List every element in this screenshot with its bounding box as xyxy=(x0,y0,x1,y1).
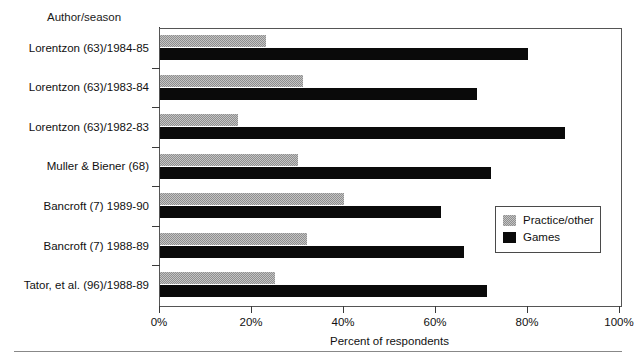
bar-practice-other xyxy=(160,35,266,47)
legend-item: Games xyxy=(503,229,594,246)
category-label-list: Lorentzon (63)/1984-85Lorentzon (63)/198… xyxy=(0,28,155,305)
category-label: Muller & Biener (68) xyxy=(47,147,149,187)
x-axis-tick xyxy=(251,306,252,313)
bar-practice-other xyxy=(160,193,344,205)
category-label: Bancroft (7) 1989-90 xyxy=(44,186,149,226)
bar-group xyxy=(160,28,620,68)
x-axis-tick xyxy=(619,306,620,313)
y-axis-tick xyxy=(152,265,160,266)
y-axis-tick xyxy=(152,147,160,148)
x-axis-title: Percent of respondents xyxy=(159,334,620,348)
bar-group xyxy=(160,68,620,108)
x-axis-tick-label: 20% xyxy=(239,315,262,329)
category-label: Lorentzon (63)/1983-84 xyxy=(29,68,149,108)
bar-games xyxy=(160,206,441,218)
x-axis-tick xyxy=(159,306,160,313)
y-axis-tick xyxy=(152,107,160,108)
bar-group xyxy=(160,147,620,187)
bar-games xyxy=(160,88,477,100)
bar-practice-other xyxy=(160,75,303,87)
bar-practice-other xyxy=(160,233,307,245)
footer-divider xyxy=(14,351,622,352)
bar-games xyxy=(160,48,528,60)
x-axis-tick xyxy=(527,306,528,313)
legend-item: Practice/other xyxy=(503,212,594,229)
x-axis-tick-label: 80% xyxy=(515,315,538,329)
x-axis-tick-label: 100% xyxy=(604,315,633,329)
category-label: Bancroft (7) 1988-89 xyxy=(44,226,149,266)
x-axis-tick-label: 60% xyxy=(423,315,446,329)
bar-games xyxy=(160,246,464,258)
bar-practice-other xyxy=(160,114,238,126)
bar-practice-other xyxy=(160,154,298,166)
bars-layer xyxy=(160,28,620,305)
y-axis-tick xyxy=(152,186,160,187)
bar-games xyxy=(160,167,491,179)
chart-legend: Practice/otherGames xyxy=(495,206,601,253)
bar-group xyxy=(160,265,620,305)
x-axis-tick-label: 0% xyxy=(151,315,168,329)
legend-item-label: Practice/other xyxy=(523,214,594,227)
hatched-gray-swatch xyxy=(503,215,516,226)
y-axis-tick xyxy=(152,226,160,227)
bar-practice-other xyxy=(160,272,275,284)
legend-item-label: Games xyxy=(523,231,560,244)
category-label: Tator, et al. (96)/1988-89 xyxy=(24,265,149,305)
x-axis-tick-label: 40% xyxy=(331,315,354,329)
bar-group xyxy=(160,107,620,147)
y-axis-title: Author/season xyxy=(47,10,121,24)
x-axis-tick xyxy=(435,306,436,313)
bar-games xyxy=(160,285,487,297)
solid-black-swatch xyxy=(503,232,516,243)
bar-games xyxy=(160,127,565,139)
x-axis-tick xyxy=(343,306,344,313)
category-label: Lorentzon (63)/1982-83 xyxy=(29,107,149,147)
category-label: Lorentzon (63)/1984-85 xyxy=(29,28,149,68)
y-axis-tick xyxy=(152,68,160,69)
